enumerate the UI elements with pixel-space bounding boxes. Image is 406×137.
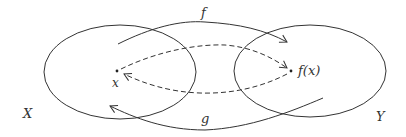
label-x: x	[112, 77, 119, 89]
arrow-g	[110, 98, 323, 130]
label-fx: f(x)	[298, 64, 320, 77]
function-diagram: f g x f(x) X Y	[0, 0, 406, 137]
dashed-arrow-x-to-fx	[121, 45, 287, 69]
dashed-arrow-fx-to-x	[124, 74, 287, 93]
label-set-y: Y	[376, 110, 385, 123]
set-x-ellipse	[44, 25, 196, 119]
arrow-f	[118, 22, 287, 44]
label-set-x: X	[23, 107, 32, 120]
point-x	[116, 70, 119, 73]
label-g: g	[201, 112, 209, 125]
point-fx	[290, 70, 293, 73]
label-f: f	[201, 6, 206, 19]
